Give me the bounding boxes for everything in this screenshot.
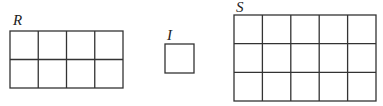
grid-r	[10, 31, 123, 88]
grid-drawing	[0, 0, 383, 106]
grid-s	[234, 15, 376, 101]
grid-i	[165, 44, 194, 73]
